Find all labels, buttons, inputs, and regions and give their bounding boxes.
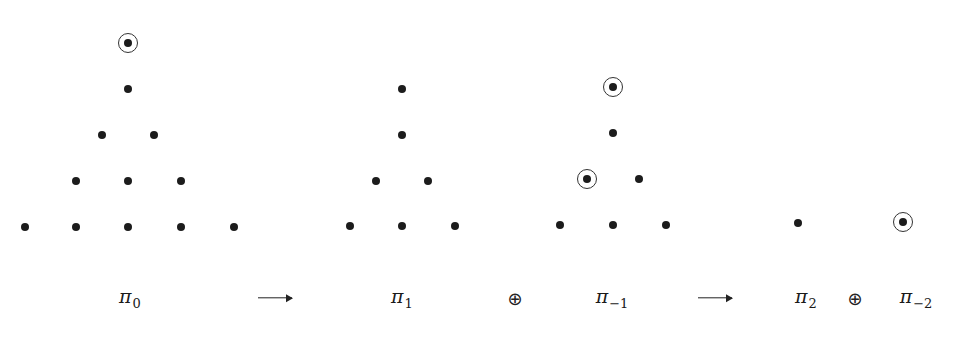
label-pi-minus1: π−1	[596, 285, 629, 311]
weight-dot-pi0	[177, 177, 185, 185]
direct-sum-1: ⊕	[507, 288, 522, 309]
weight-dot-pi_minus1	[609, 221, 617, 229]
subscript: 1	[405, 296, 413, 311]
highlight-ring-icon	[603, 77, 623, 97]
subscript: −1	[609, 296, 628, 311]
weight-dot-pi0	[230, 223, 238, 231]
weight-dot-pi1	[398, 85, 406, 93]
label-pi1: π1	[391, 285, 413, 311]
weight-dot-pi1	[398, 222, 406, 230]
weight-dot-pi1	[451, 222, 459, 230]
label-pi-minus2: π−2	[900, 285, 933, 311]
weight-dot-pi0	[72, 177, 80, 185]
weight-dot-pi_minus1	[609, 129, 617, 137]
weight-dot-pi0	[21, 223, 29, 231]
subscript: 0	[133, 296, 141, 311]
direct-sum-2: ⊕	[847, 288, 862, 309]
weight-dot-pi0	[72, 223, 80, 231]
highlight-ring-icon	[893, 212, 913, 232]
weight-dot-pi1	[424, 177, 432, 185]
label-pi2: π2	[795, 285, 817, 311]
pi-symbol: π	[795, 285, 808, 307]
weight-dot-pi0	[177, 223, 185, 231]
subscript: 2	[809, 296, 817, 311]
weight-dot-pi_minus1	[556, 221, 564, 229]
weight-dot-pi2	[794, 219, 802, 227]
weight-dot-pi1	[372, 177, 380, 185]
weight-dot-pi1	[398, 131, 406, 139]
highlight-ring-icon	[577, 169, 597, 189]
weight-dot-pi0	[124, 177, 132, 185]
pi-symbol: π	[596, 285, 609, 307]
weight-dot-pi1	[346, 222, 354, 230]
weight-dot-pi_minus1	[635, 175, 643, 183]
pi-symbol: π	[900, 285, 913, 307]
pi-symbol: π	[119, 285, 132, 307]
weight-dot-pi0	[124, 85, 132, 93]
label-pi0: π0	[119, 285, 141, 311]
weight-dot-pi_minus1	[662, 221, 670, 229]
weight-dot-pi0	[98, 131, 106, 139]
subscript: −2	[913, 296, 932, 311]
arrow-2	[698, 297, 732, 298]
highlight-ring-icon	[118, 33, 138, 53]
arrow-1	[258, 297, 292, 298]
weight-dot-pi0	[150, 131, 158, 139]
weight-dot-pi0	[124, 223, 132, 231]
pi-symbol: π	[391, 285, 404, 307]
